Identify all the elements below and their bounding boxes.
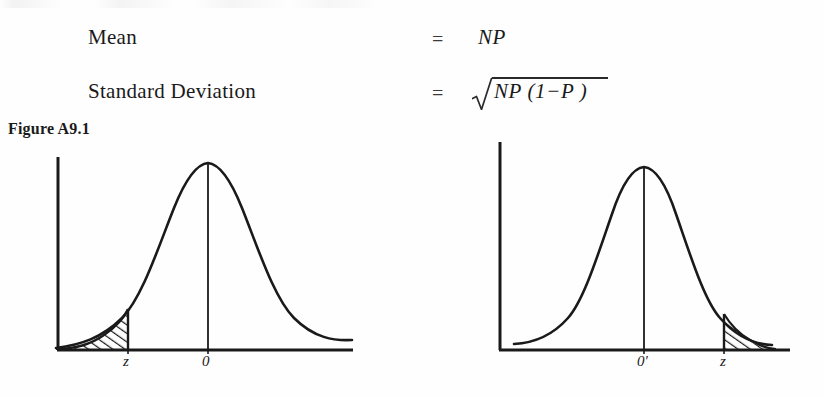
chart-left-svg bbox=[42, 138, 382, 390]
standard-deviation-label: Standard Deviation bbox=[88, 79, 256, 104]
normal-curve-left bbox=[56, 163, 352, 348]
mean-label: Mean bbox=[88, 25, 137, 50]
chart-left-tail: z 0 bbox=[42, 138, 382, 390]
shaded-region-left bbox=[52, 298, 138, 353]
normal-curve-right bbox=[514, 167, 772, 345]
radicand-text: NP (1−P ) bbox=[494, 79, 587, 103]
figure-page: Mean = NP Standard Deviation = NP (1−P )… bbox=[0, 0, 824, 398]
chart-right-tail: 0' z bbox=[472, 138, 812, 390]
figure-caption: Figure A9.1 bbox=[8, 120, 90, 138]
tick-label-z-left: z bbox=[123, 353, 129, 370]
scan-noise-artifact bbox=[0, 0, 824, 8]
radical-expression: NP (1−P ) bbox=[472, 76, 587, 104]
tick-label-zero-right: 0' bbox=[637, 353, 648, 370]
tick-label-zero-left: 0 bbox=[202, 353, 210, 370]
tick-label-z-right: z bbox=[720, 353, 726, 370]
radical-sign-icon bbox=[472, 77, 494, 110]
mean-equals-sign: = bbox=[432, 28, 443, 51]
radical-overbar bbox=[492, 77, 608, 79]
standard-deviation-value: NP (1−P ) bbox=[472, 76, 587, 110]
mean-value: NP bbox=[478, 25, 506, 50]
standard-deviation-equals-sign: = bbox=[432, 82, 443, 105]
